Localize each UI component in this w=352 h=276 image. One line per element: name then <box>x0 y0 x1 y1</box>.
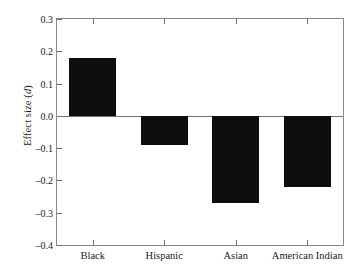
x-tick-mark-bottom <box>93 240 94 245</box>
y-tick-label: 0.0 <box>41 110 54 121</box>
x-tick-mark-top <box>164 19 165 24</box>
x-tick-mark-bottom <box>236 240 237 245</box>
plot-surface: 0.30.20.10.0–0.1–0.2–0.3–0.4 <box>57 19 343 245</box>
y-axis-title-symbol: d <box>22 89 33 94</box>
bar <box>212 116 259 203</box>
y-tick-label: 0.2 <box>41 46 54 57</box>
y-axis-title: Effect size (d) <box>22 36 33 196</box>
y-tick-mark <box>57 51 62 52</box>
y-axis-title-text: Effect size <box>22 100 33 146</box>
x-tick-mark-top <box>307 19 308 24</box>
y-tick-label: –0.2 <box>36 175 54 186</box>
bar <box>141 116 188 145</box>
y-tick-label: –0.3 <box>36 207 54 218</box>
y-tick-label: –0.1 <box>36 143 54 154</box>
y-tick-mark <box>57 19 62 20</box>
plot-area: 0.30.20.10.0–0.1–0.2–0.3–0.4 <box>56 18 344 246</box>
x-tick-mark-top <box>93 19 94 24</box>
y-tick-mark <box>57 180 62 181</box>
y-tick-mark <box>57 84 62 85</box>
x-axis-category-label: Hispanic <box>146 250 183 261</box>
x-axis-category-label: American Indian <box>272 250 343 261</box>
y-tick-label: 0.3 <box>41 14 54 25</box>
y-tick-mark <box>57 245 62 246</box>
y-tick-mark <box>57 213 62 214</box>
x-axis-category-label: Asian <box>224 250 249 261</box>
y-tick-label: –0.4 <box>36 240 54 251</box>
bar <box>284 116 331 187</box>
x-tick-mark-top <box>236 19 237 24</box>
x-tick-mark-bottom <box>164 240 165 245</box>
y-tick-mark <box>57 148 62 149</box>
y-tick-label: 0.1 <box>41 78 54 89</box>
chart-figure: Effect size (d) 0.30.20.10.0–0.1–0.2–0.3… <box>0 0 352 276</box>
x-axis-category-label: Black <box>81 250 106 261</box>
bar <box>69 58 116 116</box>
x-tick-mark-bottom <box>307 240 308 245</box>
